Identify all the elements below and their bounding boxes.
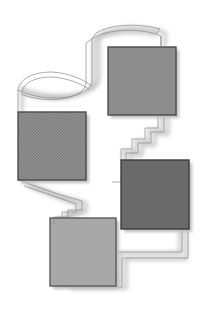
node-dark-right-rect[interactable] xyxy=(121,160,189,229)
connector-top-left-edge-cap xyxy=(86,39,92,43)
connector-top-to-left-shadow xyxy=(22,36,99,112)
node-layer xyxy=(18,47,189,286)
node-left[interactable] xyxy=(18,112,86,180)
connector-left-arc-2 xyxy=(22,77,90,92)
diagram-svg xyxy=(0,0,205,310)
diagram-canvas xyxy=(0,0,205,310)
connector-left-arc xyxy=(18,72,92,90)
node-top-right[interactable] xyxy=(108,47,176,115)
node-left-rect[interactable] xyxy=(18,112,86,180)
node-bottom-left[interactable] xyxy=(50,218,116,286)
node-dark-right[interactable] xyxy=(121,160,189,229)
node-top-right-rect[interactable] xyxy=(108,47,176,115)
node-bottom-left-rect[interactable] xyxy=(50,218,116,286)
connector-top-left-edge xyxy=(18,39,92,112)
